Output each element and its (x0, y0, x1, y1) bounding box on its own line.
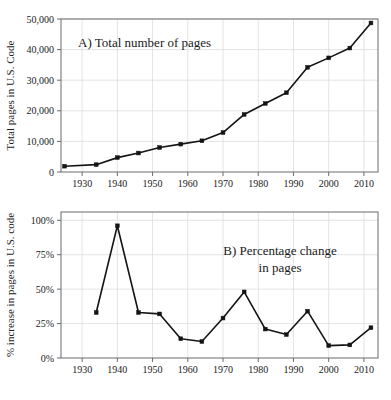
x-tick-label: 1970 (213, 178, 233, 189)
y-tick-label: 50,000 (27, 14, 55, 25)
panel-title: A) Total number of pages (78, 35, 211, 50)
data-point-marker (348, 46, 352, 50)
data-point-marker (221, 131, 225, 135)
data-point-marker (285, 333, 289, 337)
data-point-marker (137, 151, 141, 155)
data-point-marker (221, 316, 225, 320)
plot-frame (61, 212, 378, 358)
data-point-marker (242, 113, 246, 117)
x-tick-label: 1940 (107, 364, 127, 375)
x-tick-label: 1970 (213, 364, 233, 375)
panel-title-line1: B) Percentage change (223, 243, 337, 258)
y-tick-label: 40,000 (27, 44, 55, 55)
y-tick-label: 20,000 (27, 105, 55, 116)
y-tick-label: 75% (36, 249, 54, 260)
data-point-marker (94, 163, 98, 167)
y-tick-label: 30,000 (27, 75, 55, 86)
data-point-marker (200, 340, 204, 344)
chart-panel-a: 010,00020,00030,00040,00050,000193019401… (0, 0, 391, 198)
data-point-marker (158, 146, 162, 150)
data-point-marker (200, 139, 204, 143)
y-tick-label: 10,000 (27, 136, 55, 147)
data-point-marker (179, 337, 183, 341)
x-tick-label: 1980 (248, 178, 268, 189)
x-tick-label: 1980 (248, 364, 268, 375)
x-tick-label: 2000 (319, 364, 339, 375)
data-point-marker (137, 311, 141, 315)
data-point-marker (263, 102, 267, 106)
x-tick-label: 1960 (178, 178, 198, 189)
y-tick-label: 0 (49, 167, 54, 178)
panel-title-line2: in pages (259, 260, 302, 275)
data-point-marker (369, 326, 373, 330)
x-tick-label: 2000 (319, 178, 339, 189)
data-point-marker (263, 327, 267, 331)
chart-b-svg: 0%25%50%75%100%1930194019501960197019801… (0, 198, 391, 400)
data-point-marker (285, 91, 289, 95)
y-tick-label: 0% (41, 353, 54, 364)
x-tick-label: 1930 (72, 178, 92, 189)
chart-panel-b: 0%25%50%75%100%1930194019501960197019801… (0, 198, 391, 400)
data-point-marker (115, 156, 119, 160)
x-tick-label: 1940 (107, 178, 127, 189)
x-tick-label: 1960 (178, 364, 198, 375)
data-point-marker (94, 311, 98, 315)
data-point-marker (327, 344, 331, 348)
y-tick-label: 100% (31, 215, 54, 226)
data-point-marker (115, 224, 119, 228)
x-tick-label: 2010 (354, 364, 374, 375)
x-tick-label: 2010 (354, 178, 374, 189)
chart-a-svg: 010,00020,00030,00040,00050,000193019401… (0, 0, 391, 198)
data-point-marker (63, 164, 67, 168)
data-point-marker (306, 65, 310, 69)
x-tick-label: 1990 (283, 364, 303, 375)
data-point-marker (242, 290, 246, 294)
x-tick-label: 1950 (143, 364, 163, 375)
x-tick-label: 1930 (72, 364, 92, 375)
figure-us-code-pages: 010,00020,00030,00040,00050,000193019401… (0, 0, 391, 400)
y-tick-label: 25% (36, 318, 54, 329)
x-tick-label: 1990 (283, 178, 303, 189)
x-tick-label: 1950 (143, 178, 163, 189)
data-point-marker (158, 312, 162, 316)
y-axis-title: Total pages in U.S. Code (4, 40, 16, 150)
data-point-marker (306, 309, 310, 313)
y-axis-title: % increase in pages in U.S. code (4, 213, 16, 357)
data-point-marker (179, 142, 183, 146)
y-tick-label: 50% (36, 284, 54, 295)
data-point-marker (348, 343, 352, 347)
data-point-marker (369, 21, 373, 25)
data-point-marker (327, 56, 331, 60)
